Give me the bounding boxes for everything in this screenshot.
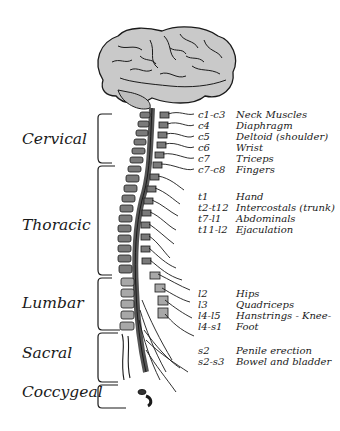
- nerve-label: t11-l2Ejaculation: [198, 224, 293, 236]
- region-label-coccygeal: Coccygeal: [22, 383, 103, 401]
- region-label-thoracic: Thoracic: [22, 216, 91, 234]
- nerve-label: l4-s1Foot: [198, 321, 258, 333]
- nerve-label: c7-c8Fingers: [198, 164, 275, 176]
- sacrum: [122, 334, 130, 380]
- region-label-cervical: Cervical: [22, 130, 87, 148]
- brain-icon: [98, 27, 236, 109]
- lumbar-vertebrae: [120, 278, 134, 330]
- lumbar-vertebrae-right: [150, 272, 168, 318]
- coccyx: [138, 390, 151, 407]
- region-label-lumbar: Lumbar: [22, 294, 84, 312]
- nerve-label: s2-s3Bowel and bladder: [198, 356, 331, 368]
- region-label-sacral: Sacral: [22, 344, 72, 362]
